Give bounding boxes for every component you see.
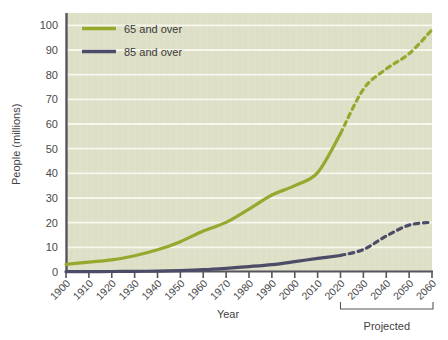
- y-tick-labels: 0102030405060708090100: [40, 19, 58, 278]
- projected-bracket-line: [341, 302, 434, 309]
- y-tick-label: 40: [46, 167, 58, 179]
- y-tick-label: 60: [46, 118, 58, 130]
- y-tick-label: 50: [46, 143, 58, 155]
- x-tick-label: 2050: [391, 277, 416, 302]
- y-tick-label: 80: [46, 69, 58, 81]
- projected-bracket-label: Projected: [364, 320, 410, 332]
- x-tick-label: 1920: [93, 277, 118, 302]
- y-tick-label: 20: [46, 217, 58, 229]
- x-tick-label: 2010: [299, 277, 324, 302]
- plot-background: [66, 13, 432, 272]
- y-tick-label: 90: [46, 44, 58, 56]
- x-axis-title: Year: [217, 308, 240, 320]
- x-tick-label: 2040: [368, 277, 393, 302]
- y-tick-label: 30: [46, 192, 58, 204]
- x-tick-labels: 1900191019201930194019501960197019801990…: [47, 277, 438, 302]
- x-tick-label: 2020: [322, 277, 347, 302]
- x-tick-label: 1960: [185, 277, 210, 302]
- y-axis-title: People (millions): [10, 104, 22, 185]
- x-tick-label: 2060: [413, 277, 438, 302]
- y-tick-label: 70: [46, 93, 58, 105]
- x-tick-label: 1970: [208, 277, 233, 302]
- x-tick-label: 1910: [70, 277, 95, 302]
- x-tick-label: 2000: [276, 277, 301, 302]
- chart-canvas: 0102030405060708090100 19001910192019301…: [0, 0, 448, 340]
- x-tick-label: 1950: [162, 277, 187, 302]
- x-tick-label: 1980: [230, 277, 255, 302]
- x-tick-label: 1940: [139, 277, 164, 302]
- legend-label-65-and-over: 65 and over: [124, 23, 182, 35]
- x-tick-label: 1930: [116, 277, 141, 302]
- x-tick-label: 1900: [47, 277, 72, 302]
- chart-figure: 0102030405060708090100 19001910192019301…: [0, 0, 448, 340]
- y-tick-label: 0: [52, 266, 58, 278]
- x-tick-label: 2030: [345, 277, 370, 302]
- legend-label-85-and-over: 85 and over: [124, 46, 182, 58]
- projected-bracket: Projected: [341, 302, 434, 332]
- x-tick-label: 1990: [253, 277, 278, 302]
- y-tick-label: 10: [46, 241, 58, 253]
- y-tick-label: 100: [40, 19, 58, 31]
